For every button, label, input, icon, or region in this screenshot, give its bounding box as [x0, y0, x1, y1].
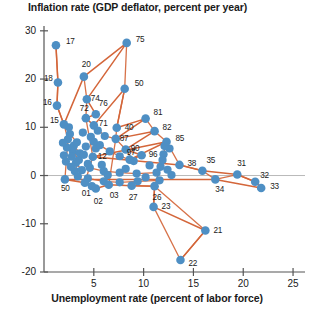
- data-point-label: 18: [44, 74, 53, 83]
- data-point: [257, 184, 266, 193]
- data-point: [116, 178, 124, 186]
- data-point-label: 17: [66, 37, 75, 46]
- y-tick-label: 0: [6, 170, 36, 181]
- data-point: [61, 175, 70, 184]
- phillips-curve-chart: Inflation rate (GDP deflator, percent pe…: [0, 0, 314, 309]
- data-point-label: 22: [188, 259, 197, 268]
- x-tick-label: 10: [132, 278, 156, 289]
- data-point-label: 34: [215, 185, 224, 194]
- data-point: [90, 121, 99, 130]
- data-point: [158, 156, 166, 164]
- data-point-label: 87: [120, 134, 129, 143]
- data-point-label: 72: [80, 104, 89, 113]
- data-point: [112, 123, 121, 132]
- data-point: [80, 151, 88, 159]
- data-point-label: 02: [94, 197, 103, 206]
- data-point-label: 85: [176, 134, 185, 143]
- data-point: [142, 173, 150, 181]
- data-point: [116, 152, 124, 160]
- data-point-label: 35: [206, 156, 215, 165]
- data-point: [150, 182, 159, 191]
- y-tick-label: -10: [6, 218, 36, 229]
- data-point: [89, 152, 98, 161]
- data-point: [120, 84, 129, 93]
- data-point: [101, 132, 109, 140]
- data-point: [81, 178, 90, 187]
- data-point-label: 38: [187, 159, 196, 168]
- data-point: [90, 138, 98, 146]
- data-point-label: 31: [237, 159, 246, 168]
- data-point: [60, 151, 68, 159]
- data-point-label: 40: [125, 123, 134, 132]
- data-point: [150, 127, 159, 136]
- data-point: [198, 166, 207, 175]
- data-point: [201, 226, 210, 235]
- data-point-label: 32: [260, 171, 269, 180]
- data-point: [104, 180, 113, 189]
- data-point: [79, 129, 87, 137]
- data-point: [251, 178, 260, 187]
- data-point-label: 03: [110, 191, 119, 200]
- data-point-label: 12: [98, 152, 107, 161]
- data-point-label: 01: [82, 189, 91, 198]
- data-point: [127, 181, 136, 190]
- data-point-label: 50: [61, 184, 70, 193]
- data-point-label: 33: [270, 182, 279, 191]
- data-point-label: 26: [153, 193, 162, 202]
- data-point-label: 71: [99, 119, 108, 128]
- y-tick-label: -20: [6, 266, 36, 277]
- data-point: [73, 138, 81, 146]
- data-point: [176, 256, 185, 265]
- data-point: [53, 101, 62, 110]
- data-point: [82, 142, 90, 150]
- data-point-label: 50: [135, 79, 144, 88]
- data-point: [175, 161, 184, 170]
- data-point: [98, 161, 106, 169]
- data-point: [54, 78, 63, 87]
- data-point: [233, 170, 242, 179]
- data-point: [67, 163, 75, 171]
- data-point-label: 15: [50, 116, 59, 125]
- x-axis-title: Unemployment rate (percent of labor forc…: [0, 292, 314, 304]
- data-point: [80, 72, 89, 81]
- data-point: [149, 203, 158, 212]
- data-point: [122, 165, 130, 173]
- y-tick-label: 10: [6, 121, 36, 132]
- data-point: [84, 160, 92, 168]
- data-point-label: 76: [99, 99, 108, 108]
- data-point: [92, 184, 101, 193]
- cluster-connector-path: [132, 186, 206, 260]
- x-tick-label: 15: [181, 278, 205, 289]
- data-point-label: 82: [163, 123, 172, 132]
- data-point: [167, 171, 175, 179]
- x-tick-label: 20: [231, 278, 255, 289]
- data-point: [141, 114, 150, 123]
- data-point: [146, 161, 154, 169]
- data-point-label: 27: [129, 193, 138, 202]
- data-point: [82, 114, 91, 123]
- data-point: [92, 110, 101, 119]
- data-point-label: 97: [127, 148, 136, 157]
- data-point: [122, 39, 131, 48]
- data-point-label: 75: [136, 35, 145, 44]
- data-point-label: 16: [43, 98, 52, 107]
- data-point-label: 81: [154, 108, 163, 117]
- data-point-label: 96: [149, 150, 158, 159]
- data-point: [59, 139, 67, 147]
- data-point: [74, 172, 82, 180]
- data-point-label: 21: [213, 226, 222, 235]
- data-point-label: 20: [82, 60, 91, 69]
- data-point: [52, 41, 61, 50]
- data-point: [133, 170, 141, 178]
- data-point: [104, 171, 112, 179]
- x-tick-label: 5: [82, 278, 106, 289]
- y-tick-label: 30: [6, 25, 36, 36]
- data-point: [211, 175, 220, 184]
- data-point: [60, 120, 69, 129]
- data-point: [162, 137, 171, 146]
- data-point-label: 23: [162, 202, 171, 211]
- data-points-layer: [52, 39, 266, 265]
- y-tick-label: 20: [6, 73, 36, 84]
- x-tick-label: 25: [281, 278, 305, 289]
